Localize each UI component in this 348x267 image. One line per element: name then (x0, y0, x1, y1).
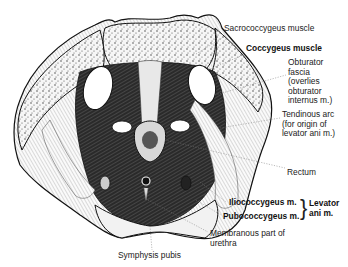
label-obturator-fascia: Obturator fascia (overlies obturator int… (288, 58, 332, 106)
label-pubococcygeus: Pubococcygeus m. (223, 212, 299, 222)
label-line: ani m. (309, 209, 339, 219)
label-line: urethra (210, 239, 285, 249)
label-membranous-urethra: Membranous part of urethra (210, 229, 285, 248)
label-iliococcygeus: Iliococcygeus m. (229, 198, 297, 208)
label-tendinous-arc: Tendinous arc (for origin of levator ani… (282, 110, 335, 139)
label-line: levator ani m.) (282, 129, 335, 139)
label-levator-ani: Levator ani m. (309, 199, 339, 218)
label-symphysis-pubis: Symphysis pubis (118, 251, 181, 261)
levator-ani-brace: } (300, 197, 307, 219)
label-sacrococcygeus-muscle: Sacrococcygeus muscle (224, 24, 314, 34)
label-coccygeus-muscle: Coccygeus muscle (246, 44, 322, 54)
label-line: internus m.) (288, 96, 332, 106)
label-rectum: Rectum (287, 168, 316, 178)
